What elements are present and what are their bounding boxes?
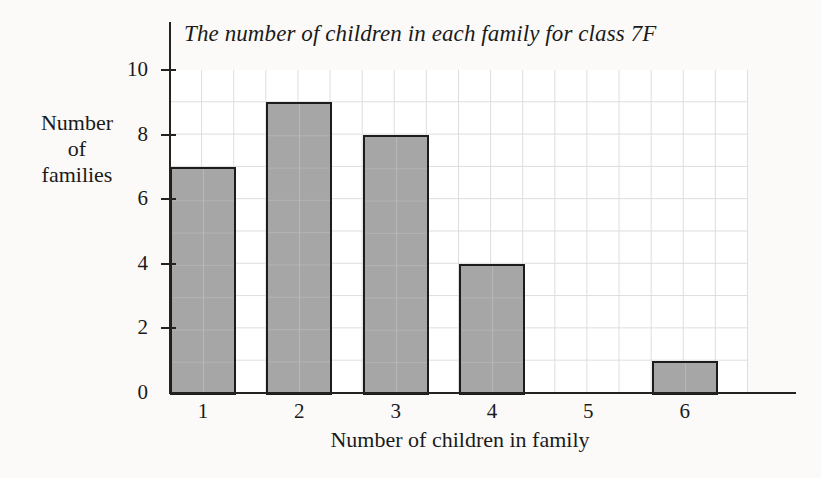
x-tick-label-3: 3: [366, 399, 426, 423]
y-axis-title-line-1: Number: [12, 110, 142, 136]
bar-category-2: [266, 102, 332, 395]
y-tick-mark-4: [161, 263, 176, 265]
y-tick-mark-8: [161, 134, 176, 136]
y-tick-label-0: 0: [112, 382, 148, 403]
bar-category-4: [459, 264, 525, 396]
x-axis-title: Number of children in family: [170, 427, 750, 453]
x-tick-label-5: 5: [558, 399, 618, 423]
y-tick-label-6: 6: [112, 188, 148, 209]
y-axis-line: [169, 22, 171, 394]
y-tick-mark-6: [161, 198, 176, 200]
bar-category-1: [170, 167, 236, 396]
y-tick-mark-2: [161, 327, 176, 329]
x-tick-label-6: 6: [655, 399, 715, 423]
x-tick-label-2: 2: [269, 399, 329, 423]
bar-category-6: [652, 361, 718, 396]
y-tick-label-2: 2: [112, 317, 148, 338]
x-tick-label-4: 4: [462, 399, 522, 423]
y-tick-label-4: 4: [112, 253, 148, 274]
bar-chart: 10 8 6 4 2 0 1 2 3 4 5 6 The number of c…: [0, 0, 821, 478]
bar-category-3: [363, 135, 429, 396]
y-axis-title-line-3: families: [12, 162, 142, 188]
y-tick-label-10: 10: [112, 59, 148, 80]
y-tick-mark-10: [161, 69, 176, 71]
y-axis-title-line-2: of: [12, 136, 142, 162]
chart-title: The number of children in each family fo…: [184, 20, 656, 48]
x-tick-label-1: 1: [173, 399, 233, 423]
x-axis-line: [170, 392, 796, 394]
y-axis-title: Number of families: [12, 110, 142, 188]
